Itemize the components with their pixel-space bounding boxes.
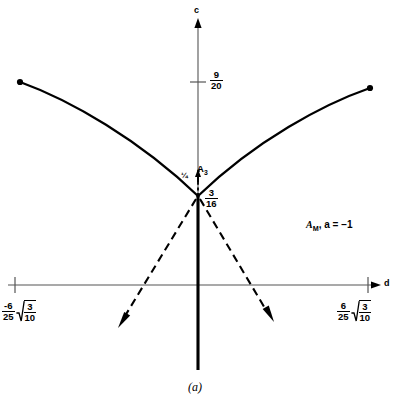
dashed-ray-left [125, 199, 196, 316]
tick-left-coefficient: -6 25 [2, 301, 15, 321]
tick-right-radical: 3 10 [351, 300, 372, 322]
tick-right-coef-denominator: 25 [337, 312, 350, 322]
tick-9-20-denominator: 20 [210, 81, 223, 91]
plot-canvas [0, 0, 397, 406]
quarter-label: ¼ [181, 172, 188, 180]
annotation-suffix: , a = −1 [319, 219, 353, 230]
curve-endpoint-dot-left [17, 79, 23, 85]
tick-right-radicand: 3 10 [359, 300, 372, 322]
curve-left-branch [20, 82, 198, 196]
c-axis-arrowhead [194, 18, 201, 28]
figure-caption: (a) [188, 380, 202, 395]
dashed-ray-right-arrowhead [263, 305, 274, 322]
d-axis-label: d [384, 279, 390, 288]
tick-right-radicand-denominator: 10 [359, 313, 372, 323]
tick-left-coef-denominator: 25 [2, 312, 15, 322]
d-axis-tick-label-right: 6 25 3 10 [337, 300, 371, 322]
cusp-value-denominator: 16 [205, 199, 218, 209]
curve-right-branch [198, 88, 370, 196]
c-axis-label: c [194, 6, 199, 15]
figure-annotation: AM, a = −1 [306, 220, 353, 232]
tick-left-radicand-denominator: 10 [24, 313, 37, 323]
tick-left-radicand: 3 10 [24, 300, 37, 322]
script-a-symbol: A [306, 219, 313, 230]
tick-left-radical: 3 10 [16, 300, 37, 322]
d-axis-arrowhead [371, 281, 381, 288]
cusp-point-letter: A [197, 163, 204, 174]
c-axis-tick-label-9-20: 9 20 [210, 70, 223, 90]
cusp-point-subscript: 3 [204, 169, 208, 176]
dashed-ray-left-arrowhead [118, 312, 130, 328]
d-axis-tick-label-left: -6 25 3 10 [2, 300, 36, 322]
tick-right-coefficient: 6 25 [337, 301, 350, 321]
cusp-point-marker [196, 194, 199, 197]
dashed-ray-right [200, 199, 266, 310]
figure-container: c d 9 20 ¼ A3 3 16 -6 25 3 10 [0, 0, 397, 406]
cusp-point-label: A3 [197, 164, 208, 177]
curve-endpoint-dot-right [367, 85, 373, 91]
cusp-value-label: 3 16 [205, 188, 218, 208]
